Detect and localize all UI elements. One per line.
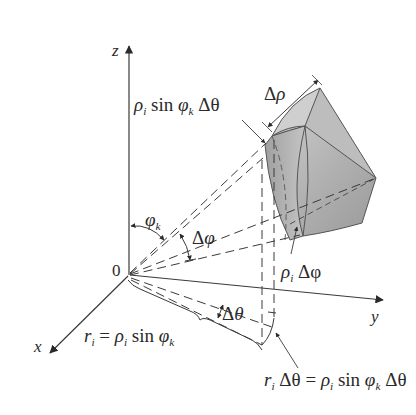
delta-theta-equals-text: Δθ = [275,369,321,390]
theta-symbol: θ [234,303,243,324]
rho-symbol: ρ [134,94,143,115]
subscript-k: k [156,220,161,232]
y-axis-label: y [371,308,379,325]
delta-phi-text: Δφ [293,261,321,282]
delta-symbol: Δ [192,227,204,248]
rho-symbol: ρ [281,261,290,282]
phi-symbol: φ [178,94,189,115]
x-axis-label: x [34,338,42,355]
sin-text: sin [146,94,178,115]
delta-symbol: Δ [222,303,234,324]
label-ri-dtheta-equation: ri Δθ = ρi sin φk Δθ [264,370,407,392]
delta-symbol: Δ [264,83,276,104]
label-delta-rho: Δρ [264,84,285,103]
equals-sign: = [95,325,115,346]
label-delta-phi: Δφ [192,228,215,247]
label-rho-delta-phi: ρi Δφ [281,262,321,284]
phi-symbol: φ [145,209,156,230]
label-phi-k: φk [145,210,161,232]
phi-symbol: φ [159,325,170,346]
z-axis-label: z [112,42,119,59]
sin-text: sin [333,369,365,390]
label-rho-sin-phi-dtheta-top: ρi sin φk Δθ [134,95,220,117]
origin-label: 0 [112,262,121,279]
spherical-wedge-diagram [0,0,416,415]
spherical-wedge [265,88,376,240]
y-axis [130,275,383,300]
rho-symbol: ρ [276,83,285,104]
rho-symbol: ρ [321,369,330,390]
sin-text: sin [127,325,159,346]
label-ri-equals: ri = ρi sin φk [84,326,174,348]
phi-symbol: φ [204,227,215,248]
rho-symbol: ρ [115,325,124,346]
subscript-k: k [169,336,174,348]
delta-theta-text: Δθ [380,369,406,390]
phi-symbol: φ [365,369,376,390]
label-delta-theta: Δθ [222,304,244,323]
delta-theta-text: Δθ [194,94,220,115]
